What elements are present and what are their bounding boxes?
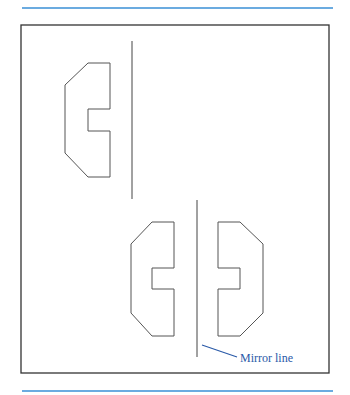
mirror-line-label: Mirror line	[240, 351, 293, 365]
figure-frame	[21, 25, 329, 373]
copy-shape-left	[131, 222, 174, 336]
mirror-diagram: Mirror line	[0, 0, 350, 395]
label-leader-line	[202, 345, 237, 357]
reflected-shape-right	[218, 222, 263, 336]
original-shape	[65, 63, 110, 177]
